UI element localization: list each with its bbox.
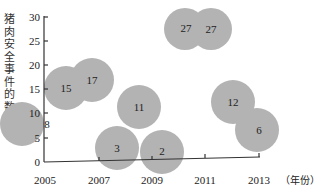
y-tick-label: 20 — [29, 59, 41, 71]
bubble-label: 6 — [256, 124, 262, 136]
x-tick-label: 2009 — [141, 174, 164, 186]
bubbles — [0, 8, 279, 174]
bubble-label: 27 — [206, 23, 218, 35]
bubble-label: 8 — [44, 118, 50, 130]
bubble-label: 2 — [159, 145, 165, 157]
bubble-label: 3 — [114, 142, 120, 154]
x-axis-unit: （年份） — [280, 174, 316, 186]
bubble-label: 11 — [134, 101, 145, 113]
y-tick-label: 15 — [29, 83, 41, 95]
x-tick-label: 2007 — [88, 174, 111, 186]
bubble-label: 17 — [87, 74, 99, 86]
y-tick-label: 0 — [35, 156, 41, 168]
y-tick-label: 25 — [29, 35, 41, 47]
x-tick-label: 2005 — [34, 174, 57, 186]
bubble-label: 12 — [228, 96, 239, 108]
y-tick-label: 5 — [35, 132, 41, 144]
bubble-label: 15 — [61, 82, 73, 94]
y-tick-labels: 30 25 20 15 10 5 0 — [29, 11, 41, 168]
x-tick-label: 2013 — [248, 174, 271, 186]
y-tick-label: 30 — [29, 11, 41, 23]
y-tick-label: 10 — [29, 107, 41, 119]
chart-svg: 30 25 20 15 10 5 0 2005 2007 2009 2011 2… — [0, 0, 316, 194]
bubble-label: 27 — [181, 22, 193, 34]
x-tick-label: 2011 — [194, 174, 216, 186]
x-tick-labels: 2005 2007 2009 2011 2013 （年份） — [34, 174, 316, 186]
bubble-chart: 猪肉安全事件的数量（起） — [0, 0, 316, 194]
